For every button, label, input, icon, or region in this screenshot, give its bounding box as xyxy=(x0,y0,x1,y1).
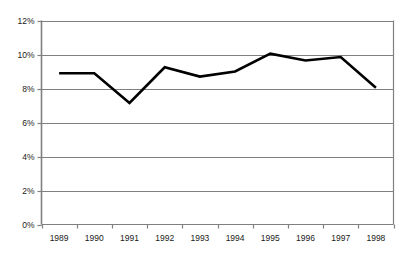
line-chart: 0%2%4%6%8%10%12% 19891990199119921993199… xyxy=(0,0,409,257)
x-axis-tick-label: 1995 xyxy=(253,234,288,243)
x-axis-tick-label: 1991 xyxy=(112,234,147,243)
y-axis-tick-label: 0% xyxy=(0,221,35,230)
x-axis-tick-label: 1990 xyxy=(77,234,112,243)
x-axis-tick-label: 1996 xyxy=(288,234,323,243)
plot-background xyxy=(41,21,394,224)
y-axis-tick-label: 8% xyxy=(0,85,35,94)
x-axis-tick-label: 1993 xyxy=(182,234,217,243)
x-axis-ticks xyxy=(43,225,395,229)
y-axis-tick-label: 12% xyxy=(0,17,35,26)
x-axis-tick-label: 1992 xyxy=(147,234,182,243)
y-axis-tick-label: 4% xyxy=(0,153,35,162)
y-axis-tick-label: 10% xyxy=(0,51,35,60)
y-axis-tick-label: 6% xyxy=(0,119,35,128)
y-axis-tick-label: 2% xyxy=(0,187,35,196)
x-axis-tick-label: 1994 xyxy=(218,234,253,243)
chart-plot-area xyxy=(0,0,409,257)
x-axis-tick-label: 1997 xyxy=(323,234,358,243)
x-axis-tick-label: 1998 xyxy=(358,234,393,243)
x-axis-tick-label: 1989 xyxy=(42,234,77,243)
